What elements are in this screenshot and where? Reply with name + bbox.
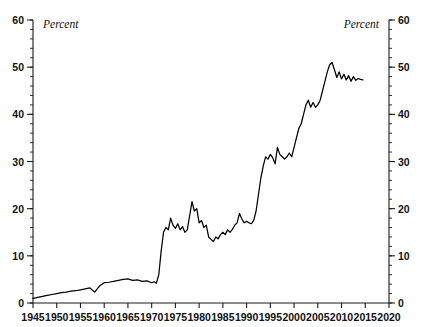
line-chart: 0010102020303040405050606019451950195519…	[0, 0, 422, 327]
x-axis-tick-label: 2000	[282, 311, 306, 323]
y-axis-right-tick-label: 20	[398, 203, 410, 215]
y-axis-tick-label: 60	[12, 14, 24, 26]
x-axis-tick-label: 1960	[93, 311, 117, 323]
x-axis-tick-label: 1945	[21, 311, 45, 323]
x-axis-tick-label: 2020	[377, 311, 401, 323]
x-axis-tick-label: 2010	[330, 311, 354, 323]
y-axis-right-tick-label: 30	[398, 156, 410, 168]
y-axis-tick-label: 0	[18, 297, 24, 309]
x-axis-tick-label: 1985	[211, 311, 235, 323]
y-axis-right-tick-label: 0	[398, 297, 404, 309]
right-axis-unit-label: Percent	[343, 18, 380, 30]
y-axis-tick-label: 30	[12, 156, 24, 168]
x-axis-tick-label: 2005	[306, 311, 330, 323]
y-axis-tick-label: 50	[12, 61, 24, 73]
x-axis-tick-label: 1955	[69, 311, 93, 323]
chart-background	[0, 0, 422, 327]
x-axis-tick-label: 1990	[235, 311, 259, 323]
x-axis-tick-label: 1995	[259, 311, 283, 323]
x-axis-tick-label: 1950	[45, 311, 69, 323]
y-axis-right-tick-label: 40	[398, 108, 410, 120]
x-axis-tick-label: 2015	[354, 311, 378, 323]
x-axis-tick-label: 1975	[164, 311, 188, 323]
y-axis-tick-label: 10	[12, 250, 24, 262]
x-axis-tick-label: 1965	[116, 311, 140, 323]
y-axis-right-tick-label: 60	[398, 14, 410, 26]
y-axis-tick-label: 40	[12, 108, 24, 120]
x-axis-tick-label: 1970	[140, 311, 164, 323]
y-axis-tick-label: 20	[12, 203, 24, 215]
y-axis-right-tick-label: 10	[398, 250, 410, 262]
x-axis-tick-label: 1980	[187, 311, 211, 323]
y-axis-right-tick-label: 50	[398, 61, 410, 73]
chart-container: 0010102020303040405050606019451950195519…	[0, 0, 422, 327]
left-axis-unit-label: Percent	[42, 18, 79, 30]
